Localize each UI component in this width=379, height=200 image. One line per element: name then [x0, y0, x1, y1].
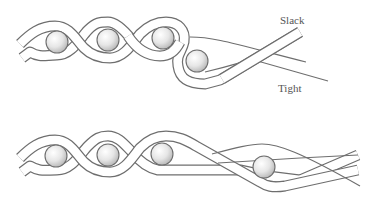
slack-label: Slack — [280, 15, 304, 26]
ball-bottom-4 — [253, 156, 275, 178]
ball-bottom-2 — [97, 144, 119, 166]
ball-top-3 — [152, 27, 174, 49]
ball-top-1 — [46, 31, 68, 53]
top-panel-twisted-strands — [20, 22, 328, 84]
bottom-panel-twisted-strands — [20, 136, 360, 187]
ball-top-4 — [186, 50, 208, 72]
twisted-strands-diagram — [0, 0, 379, 200]
slack-band — [222, 32, 300, 79]
ball-top-2 — [97, 29, 119, 51]
tight-label: Tight — [278, 83, 301, 94]
ball-bottom-1 — [45, 145, 67, 167]
ball-bottom-3 — [151, 143, 173, 165]
